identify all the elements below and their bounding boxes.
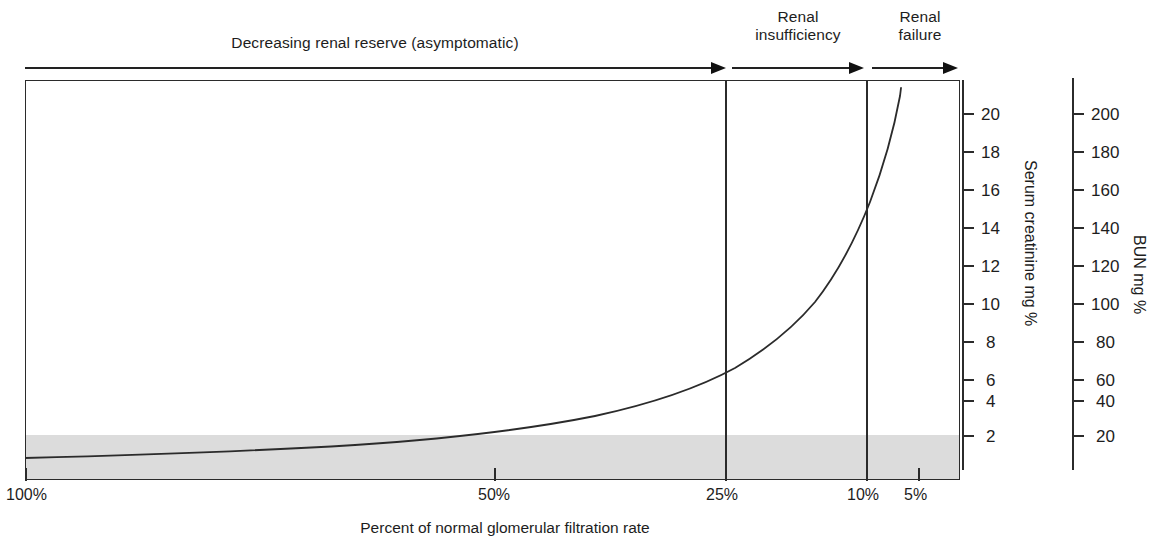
bun-axis-line: [1072, 78, 1074, 470]
stage-arrow-head-2: [849, 62, 864, 74]
creatinine-label-10: 10: [981, 296, 1000, 313]
creatinine-label-20: 20: [981, 106, 1000, 123]
bun-tick-100: [1074, 303, 1084, 305]
stage-label-decreasing-renal-reserve: Decreasing renal reserve (asymptomatic): [25, 34, 725, 52]
creatinine-label-8: 8: [986, 334, 995, 351]
bun-tick-160: [1074, 189, 1084, 191]
bun-label-80: 80: [1096, 334, 1115, 351]
creatinine-tick-6: [964, 379, 974, 381]
bun-tick-200: [1074, 113, 1084, 115]
x-label-50: 50%: [478, 486, 510, 504]
creatinine-label-4: 4: [986, 393, 995, 410]
x-axis-title: Percent of normal glomerular filtration …: [0, 519, 1010, 537]
creatinine-tick-12: [964, 265, 974, 267]
x-label-25: 25%: [706, 486, 738, 504]
creatinine-label-18: 18: [981, 144, 1000, 161]
bun-tick-60: [1074, 379, 1084, 381]
creatinine-label-2: 2: [986, 428, 995, 445]
x-tick-25: [725, 468, 727, 481]
bun-tick-120: [1074, 265, 1084, 267]
bun-label-40: 40: [1096, 393, 1115, 410]
creatinine-label-14: 14: [981, 220, 1000, 237]
creatinine-tick-2: [964, 435, 974, 437]
bun-label-60: 60: [1096, 372, 1115, 389]
bun-tick-40: [1074, 400, 1084, 402]
stage-arrow-head-1: [711, 62, 726, 74]
x-tick-100: [25, 468, 27, 481]
creatinine-label-12: 12: [981, 258, 1000, 275]
creatinine-tick-10: [964, 303, 974, 305]
bun-label-20: 20: [1096, 428, 1115, 445]
bun-tick-180: [1074, 151, 1084, 153]
creatinine-label-6: 6: [986, 372, 995, 389]
bun-label-120: 120: [1091, 258, 1119, 275]
creatinine-tick-18: [964, 151, 974, 153]
x-label-10: 10%: [847, 486, 879, 504]
x-tick-5: [918, 468, 920, 481]
x-label-5: 5%: [904, 486, 927, 504]
bun-axis-title: BUN mg %: [1131, 235, 1148, 314]
bun-label-100: 100: [1091, 296, 1119, 313]
stage-arrow-line-3: [872, 67, 944, 69]
creatinine-tick-16: [964, 189, 974, 191]
stage-label-renal-failure: Renal failure: [872, 8, 968, 44]
bun-label-140: 140: [1091, 220, 1119, 237]
creatinine-axis-title: Serum creatinine mg %: [1022, 160, 1039, 326]
x-tick-50: [494, 468, 496, 481]
bun-label-180: 180: [1091, 144, 1119, 161]
stage-label-renal-insufficiency: Renal insufficiency: [730, 8, 866, 44]
creatinine-tick-20: [964, 113, 974, 115]
bun-tick-20: [1074, 435, 1084, 437]
creatinine-axis-line: [962, 80, 964, 470]
stage-arrow-line-1: [25, 67, 713, 69]
serum-creatinine-curve: [25, 80, 960, 480]
stage-arrow-line-2: [732, 67, 850, 69]
creatinine-label-16: 16: [981, 182, 1000, 199]
stage-arrow-head-3: [943, 62, 958, 74]
bun-label-200: 200: [1091, 106, 1119, 123]
bun-tick-140: [1074, 227, 1084, 229]
creatinine-tick-8: [964, 341, 974, 343]
creatinine-tick-14: [964, 227, 974, 229]
x-tick-10: [866, 468, 868, 481]
renal-function-figure: Decreasing renal reserve (asymptomatic) …: [0, 0, 1162, 544]
bun-tick-80: [1074, 341, 1084, 343]
creatinine-tick-4: [964, 400, 974, 402]
bun-label-160: 160: [1091, 182, 1119, 199]
x-label-100: 100%: [6, 486, 47, 504]
